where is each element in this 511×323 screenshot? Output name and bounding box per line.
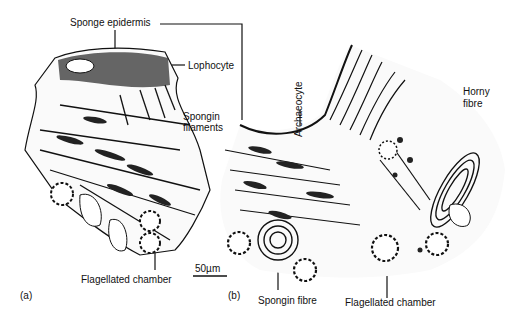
panel-b-tissue	[220, 45, 505, 281]
label-archaeocyte: Archaeocyte	[293, 81, 304, 137]
label-horny-fibre-line1: Horny	[463, 86, 490, 97]
label-flagellated-chamber-a: Flagellated chamber	[81, 274, 172, 285]
panel-a-tissue	[25, 48, 210, 255]
label-spongin-fibre: Spongin fibre	[258, 295, 317, 306]
tissue-drawing	[0, 0, 511, 323]
label-horny-fibre-line2: fibre	[463, 98, 482, 109]
label-spongin-filaments-line2: filaments	[183, 122, 223, 133]
label-spongin-filaments-line1: Spongin	[183, 111, 220, 122]
label-sponge-epidermis: Sponge epidermis	[70, 17, 151, 28]
scale-bar-label: 50µm	[195, 263, 220, 274]
sponge-tissue-figure: Sponge epidermis Lophocyte Spongin filam…	[0, 0, 511, 323]
panel-b-label: (b)	[228, 290, 240, 301]
label-lophocyte: Lophocyte	[188, 60, 234, 71]
label-flagellated-chamber-b: Flagellated chamber	[345, 297, 436, 308]
panel-a-label: (a)	[20, 290, 32, 301]
